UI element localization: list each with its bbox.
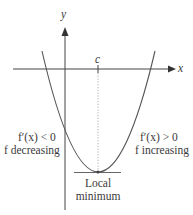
y-axis-label: y <box>61 8 66 21</box>
x-axis-label: x <box>178 62 183 75</box>
right-behavior-label: f increasing <box>135 144 189 157</box>
left-behavior-label: f decreasing <box>4 144 60 157</box>
local-minimum-label-line1: Local <box>68 177 128 190</box>
y-axis-arrow-icon <box>62 27 69 36</box>
critical-point-label: c <box>95 53 100 66</box>
minimum-point <box>96 170 99 173</box>
x-axis-arrow-icon <box>168 66 176 73</box>
right-derivative-label: f′(x) > 0 <box>140 131 178 144</box>
local-minimum-label-line2: minimum <box>68 190 128 203</box>
left-derivative-label: f′(x) < 0 <box>18 131 56 144</box>
